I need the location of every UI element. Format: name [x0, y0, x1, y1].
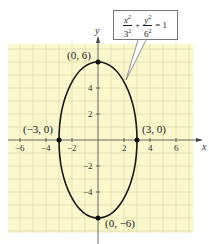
x-tick-label: 6 [174, 143, 179, 153]
y-tick-label: −4 [83, 187, 93, 197]
plot-area [8, 44, 193, 233]
x-fraction: x2 32 [123, 12, 132, 39]
equation-callout: x2 32 + y2 62 = 1 [113, 10, 178, 40]
vertex-point [96, 60, 101, 65]
y-axis-arrow-icon [96, 36, 100, 43]
x-tick-label: 4 [148, 143, 153, 153]
x-tick-label: −4 [41, 143, 51, 153]
vertex-point [135, 138, 140, 143]
vertex-point [96, 216, 101, 221]
x-tick-label: −2 [67, 143, 77, 153]
point-label-top: (0, 6) [67, 49, 91, 62]
x-tick-label: 2 [122, 143, 127, 153]
y-axis-label: y [94, 25, 100, 36]
y-tick-label: 4 [88, 83, 93, 93]
point-label-bottom: (0, −6) [105, 217, 135, 230]
x-tick-label: −6 [15, 143, 25, 153]
point-label-right: (3, 0) [142, 123, 166, 136]
y-tick-label: 2 [88, 109, 93, 119]
y-fraction: y2 62 [143, 12, 152, 39]
x-axis-label: x [201, 141, 207, 152]
y-tick-label: −2 [83, 161, 93, 171]
vertex-point [57, 138, 62, 143]
point-label-left: (−3, 0) [23, 123, 53, 136]
